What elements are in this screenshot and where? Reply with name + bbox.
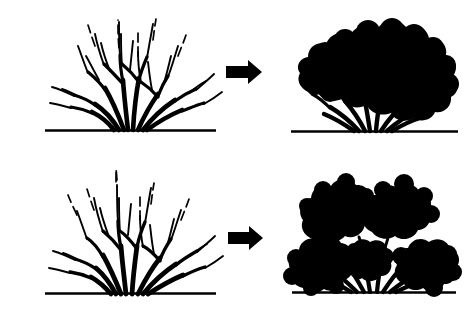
shrub-architecture-figure <box>0 0 472 317</box>
